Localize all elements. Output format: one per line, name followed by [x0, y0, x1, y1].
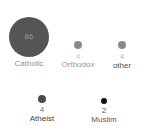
bubble-value-muslim: 2: [84, 107, 124, 115]
bubble-label-other: other: [97, 61, 147, 70]
bubble-value-other: 4: [102, 53, 142, 61]
bubble-value-catholic: 86: [9, 33, 49, 41]
bubble-other: [118, 41, 126, 49]
bubble-label-muslim: Muslim: [79, 115, 129, 124]
bubble-atheist: [38, 95, 46, 103]
bubble-muslim: [101, 98, 107, 104]
bubble-orthodox: [74, 41, 82, 49]
bubble-chart: 86 Catholic 4 Orthodox 4 other 4 Atheist…: [0, 0, 148, 135]
bubble-label-atheist: Atheist: [17, 114, 67, 123]
bubble-label-orthodox: Orthodox: [53, 60, 103, 69]
bubble-label-catholic: Catholic: [4, 59, 54, 68]
bubble-value-atheist: 4: [22, 106, 62, 114]
